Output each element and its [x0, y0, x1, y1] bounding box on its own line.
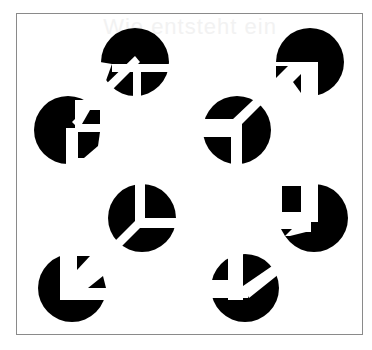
disk-bottom-right-front [208, 254, 284, 322]
disk-bottom-left-front [38, 254, 110, 322]
disk-top-right-front [202, 86, 274, 166]
disk-top-left-back [100, 28, 170, 100]
disk-top-left-front [34, 96, 103, 166]
illusory-cube-figure [0, 0, 372, 350]
disk-top-right-back [274, 28, 344, 98]
disk-bottom-left-back [106, 180, 180, 256]
disk-bottom-right-back [278, 180, 348, 256]
